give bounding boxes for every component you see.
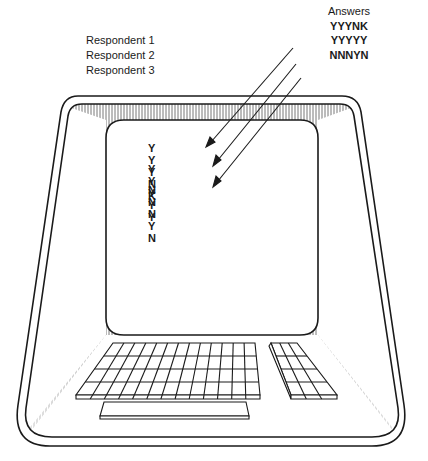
terminal-illustration [0, 0, 428, 461]
screen-cell: N [148, 208, 164, 220]
screen-cell: Y [148, 220, 164, 232]
screen-cell: Y [148, 142, 164, 154]
screen-row-3: NNNYN [148, 184, 164, 198]
screen-cell: N [148, 232, 164, 244]
screen-row-2: YYYYY [148, 163, 164, 177]
screen [106, 120, 318, 335]
screen-cell: N [148, 196, 164, 208]
screen-cell: N [148, 184, 164, 196]
screen-row-1: YYYNK [148, 142, 164, 156]
spacebar [100, 402, 249, 419]
screen-cell: Y [148, 163, 164, 175]
